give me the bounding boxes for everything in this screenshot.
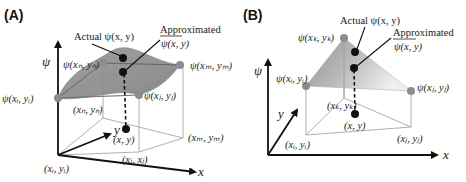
panel-b-label: (B) — [243, 7, 262, 23]
base-label-j-a: (xⱼ, xⱼ) — [122, 154, 148, 166]
approximated-title-b: Approximated — [393, 27, 454, 38]
approximated-point-a — [119, 68, 127, 76]
base-label-i-b: (xᵢ, yᵢ) — [285, 139, 310, 151]
base-point-a — [122, 125, 130, 133]
base-point-b — [351, 110, 359, 118]
base-label-point-a: (x, y) — [113, 134, 135, 146]
panel-a: (A) ψ x y — [2, 7, 233, 179]
actual-label-a: Actual ψ(x, y) — [74, 31, 134, 43]
label-psi-j-a: ψ(xⱼ, yⱼ) — [144, 90, 177, 102]
panel-a-label: (A) — [4, 7, 23, 23]
actual-point-b — [351, 48, 359, 56]
node-psi-m-a — [176, 61, 184, 69]
psi-axis-label-a: ψ — [42, 54, 51, 69]
diagram-canvas: (A) ψ x y — [0, 0, 466, 182]
y-axis-a — [58, 134, 110, 155]
label-psi-m-a: ψ(xₘ, yₘ) — [190, 60, 233, 72]
node-psi-k-b — [340, 34, 348, 42]
base-label-m-a: (xₘ, yₘ) — [188, 132, 224, 144]
node-psi-j-a — [135, 91, 143, 99]
approximated-value-a: ψ(x, y) — [161, 38, 190, 50]
label-psi-k-b: ψ(xₖ, yₖ) — [298, 32, 335, 44]
base-label-j-b: (xⱼ, yⱼ) — [397, 133, 423, 145]
psi-axis-label-b: ψ — [254, 63, 263, 78]
label-psi-i-a: ψ(xᵢ, yᵢ) — [2, 93, 34, 105]
base-label-n-a: (xₙ, yₙ) — [73, 104, 103, 116]
node-psi-n-a — [99, 59, 107, 67]
node-psi-i-a — [54, 94, 62, 102]
x-axis-label-a: x — [197, 164, 204, 179]
approximated-title-a: Approximated — [160, 24, 221, 35]
y-axis-label-b: y — [276, 106, 284, 121]
approximated-value-b: ψ(x, y) — [394, 41, 423, 53]
node-psi-j-b — [407, 87, 415, 95]
label-psi-n-a: ψ(xₙ, yₙ) — [63, 59, 100, 71]
base-label-point-b: (x, y) — [344, 120, 366, 132]
approximated-point-b — [350, 64, 358, 72]
panel-b: (B) ψ x y Actu — [243, 7, 454, 162]
base-label-k-b: (xₖ, yₖ) — [327, 100, 357, 112]
actual-label-b: Actual ψ(x, y) — [340, 15, 400, 27]
label-psi-i-b: ψ(xᵢ, yᵢ) — [276, 73, 308, 85]
label-psi-j-b: ψ(xⱼ, yⱼ) — [417, 82, 450, 94]
x-axis-label-b: x — [442, 147, 449, 162]
base-label-i-a: (xᵢ, yᵢ) — [44, 163, 69, 175]
